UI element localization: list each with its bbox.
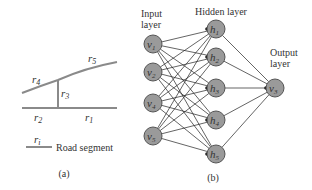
caption-b: (b) [207, 172, 219, 184]
label-r3: r3 [61, 87, 69, 101]
input-node-v4: v4 [144, 94, 162, 112]
output-layer-label-1: Output [270, 47, 298, 58]
road-network-panel: r5 r4 r3 r2 r1 ri Road segment (a) [22, 52, 117, 180]
input-layer-label-1: Input [141, 8, 162, 19]
caption-a: (a) [58, 168, 69, 180]
label-r5: r5 [88, 52, 96, 66]
label-r2: r2 [34, 111, 42, 125]
legend-symbol: ri [34, 133, 41, 147]
input-node-v2: v2 [144, 63, 162, 81]
output-layer-label-2: layer [270, 58, 291, 69]
output-node-v3: v3 [266, 79, 284, 97]
hidden-node-h5: h5 [207, 145, 225, 163]
input-layer-label-2: layer [141, 19, 162, 30]
hidden-node-h1: h1 [207, 20, 225, 38]
neural-network-panel: Input layer Hidden layer Output layer v1… [141, 6, 298, 184]
hidden-layer-label: Hidden layer [195, 6, 248, 17]
legend-label: Road segment [56, 142, 113, 153]
hidden-node-h2: h2 [207, 48, 225, 66]
input-node-v5: v5 [144, 127, 162, 145]
label-r4: r4 [32, 73, 40, 87]
figure: r5 r4 r3 r2 r1 ri Road segment (a) Input… [0, 0, 312, 190]
label-r1: r1 [85, 111, 93, 125]
input-node-v1: v1 [144, 35, 162, 53]
hidden-node-h4: h4 [207, 111, 225, 129]
hidden-node-h3: h3 [207, 79, 225, 97]
legend: ri Road segment [26, 133, 113, 153]
